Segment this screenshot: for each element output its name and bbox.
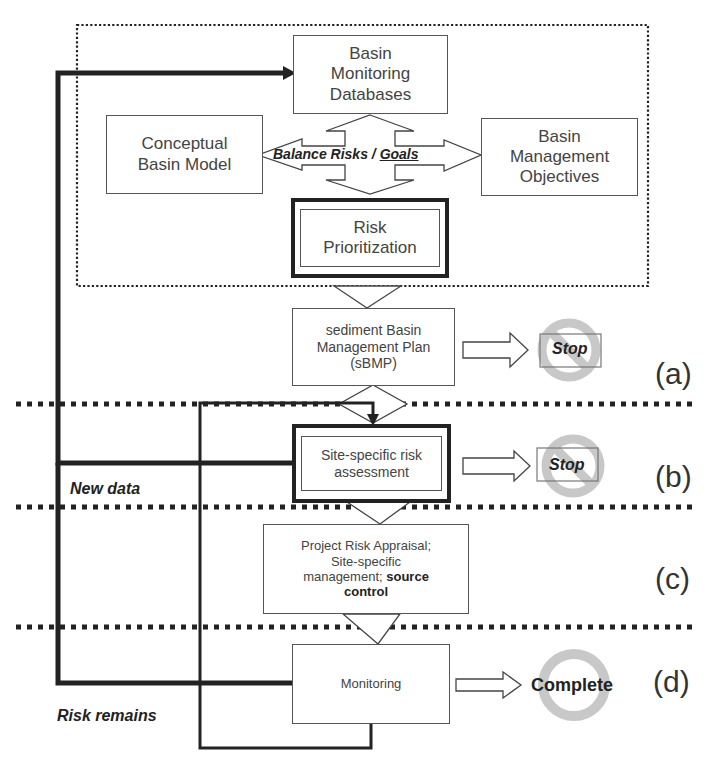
box-project-risk: Project Risk Appraisal; Site-specific ma… <box>263 524 469 614</box>
box-sbmp: sediment Basin Management Plan (sBMP) <box>292 308 455 386</box>
sbmp-label: sediment Basin Management Plan (sBMP) <box>317 322 431 372</box>
arrow-right-stop-b <box>463 451 530 481</box>
box-site-specific: Site-specific risk assessment <box>292 424 451 503</box>
risk-remains-label: Risk remains <box>57 707 157 725</box>
panel-label-a: (a) <box>655 357 692 391</box>
monitoring-label: Monitoring <box>341 676 402 691</box>
box-monitoring-databases: Basin Monitoring Databases <box>293 35 448 114</box>
complete-label: Complete <box>531 675 613 696</box>
box-monitoring: Monitoring <box>292 644 450 724</box>
arrow-right-stop-a <box>463 333 528 367</box>
arrow-down-1 <box>334 286 401 308</box>
box-risk-prioritization: Risk Prioritization <box>291 198 449 278</box>
conceptual-model-label: Conceptual Basin Model <box>138 134 232 174</box>
stop-label-a: Stop <box>552 340 588 358</box>
risk-prioritization-label: Risk Prioritization <box>323 218 417 258</box>
arrow-right-complete <box>456 672 521 698</box>
balance-risks-goals-label: Balance Risks / Goals <box>273 146 419 162</box>
monitoring-databases-label: Basin Monitoring Databases <box>330 44 411 104</box>
arrow-down-3 <box>347 502 410 524</box>
site-specific-label: Site-specific risk assessment <box>321 447 422 480</box>
management-objectives-label: Basin Management Objectives <box>510 127 609 187</box>
panel-label-d: (d) <box>653 665 690 699</box>
risk-prioritization-inner: Risk Prioritization <box>300 209 440 267</box>
project-risk-label: Project Risk Appraisal; Site-specific ma… <box>301 538 431 599</box>
panel-label-c: (c) <box>655 562 690 596</box>
panel-label-b: (b) <box>655 460 692 494</box>
new-data-label: New data <box>70 480 140 498</box>
box-conceptual-model: Conceptual Basin Model <box>106 115 263 194</box>
site-specific-inner: Site-specific risk assessment <box>301 436 442 491</box>
box-management-objectives: Basin Management Objectives <box>481 118 638 196</box>
stop-label-b: Stop <box>549 456 585 474</box>
